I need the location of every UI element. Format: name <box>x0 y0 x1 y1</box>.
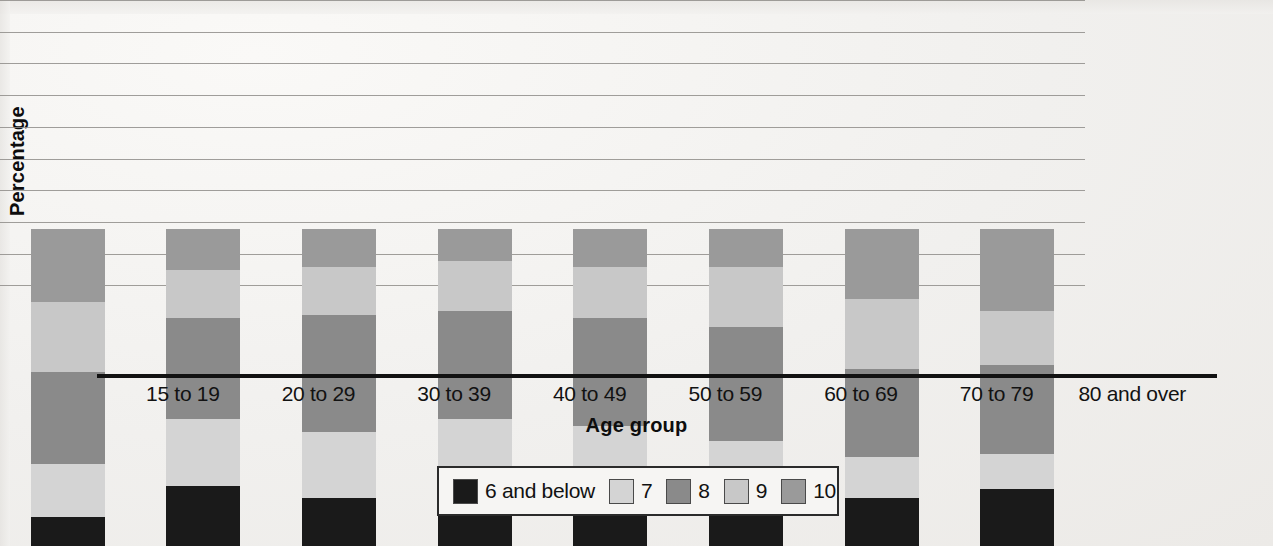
bar-segment[interactable] <box>573 229 647 267</box>
bar-segment[interactable] <box>302 498 376 546</box>
legend-label: 9 <box>756 479 767 503</box>
legend-swatch <box>666 479 691 504</box>
scan-edge-left <box>0 0 10 546</box>
legend-item[interactable]: 9 <box>724 479 767 504</box>
gridline <box>0 95 1085 96</box>
legend-swatch <box>453 479 478 504</box>
bar-segment[interactable] <box>438 261 512 312</box>
bar-segment[interactable] <box>980 229 1054 311</box>
bar-segment[interactable] <box>31 464 105 518</box>
gridline <box>0 254 1085 255</box>
legend-label: 10 <box>813 479 836 503</box>
bar-segment[interactable] <box>845 498 919 546</box>
legend-label: 6 and below <box>485 479 595 503</box>
bar-segment[interactable] <box>709 267 783 327</box>
gridline <box>0 190 1085 191</box>
gridline <box>0 0 1085 1</box>
legend-item[interactable]: 8 <box>666 479 709 504</box>
gridline <box>0 159 1085 160</box>
bar-segment[interactable] <box>573 318 647 426</box>
bar-segment[interactable] <box>31 517 105 546</box>
gridline <box>0 222 1085 223</box>
scan-edge-top <box>0 0 1273 14</box>
bar-segment[interactable] <box>980 454 1054 489</box>
legend-swatch <box>781 479 806 504</box>
x-axis-title: Age group <box>0 414 1273 437</box>
gridline <box>0 127 1085 128</box>
bar-segment[interactable] <box>166 486 240 546</box>
bar-segment[interactable] <box>166 229 240 270</box>
bar-segment[interactable] <box>980 311 1054 365</box>
bar-segment[interactable] <box>438 229 512 261</box>
bar-segment[interactable] <box>302 432 376 499</box>
gridline <box>0 32 1085 33</box>
bar-segment[interactable] <box>980 365 1054 454</box>
bar-segment[interactable] <box>980 489 1054 546</box>
legend-item[interactable]: 6 and below <box>453 479 595 504</box>
x-axis-line <box>97 374 1217 378</box>
bar-segment[interactable] <box>709 229 783 267</box>
chart-legend: 6 and below78910 <box>437 466 839 516</box>
bar-segment[interactable] <box>845 457 919 498</box>
bar-segment[interactable] <box>302 229 376 267</box>
y-axis-title: Percentage <box>6 106 29 216</box>
bar-segment[interactable] <box>845 299 919 369</box>
legend-label: 8 <box>698 479 709 503</box>
x-tick-label: 80 and over <box>1052 382 1212 406</box>
bar-segment[interactable] <box>845 229 919 299</box>
gridline <box>0 63 1085 64</box>
legend-swatch <box>724 479 749 504</box>
bar-segment[interactable] <box>166 270 240 318</box>
bar-segment[interactable] <box>31 229 105 302</box>
bar-segment[interactable] <box>573 267 647 318</box>
chart-page: Percentage 1009080706050403020100 15 to … <box>0 0 1273 546</box>
legend-swatch <box>609 479 634 504</box>
legend-item[interactable]: 10 <box>781 479 836 504</box>
bar-segment[interactable] <box>302 267 376 315</box>
gridline <box>0 285 1085 286</box>
legend-label: 7 <box>641 479 652 503</box>
legend-item[interactable]: 7 <box>609 479 652 504</box>
bar-stack[interactable] <box>31 229 105 546</box>
bar-segment[interactable] <box>31 302 105 372</box>
